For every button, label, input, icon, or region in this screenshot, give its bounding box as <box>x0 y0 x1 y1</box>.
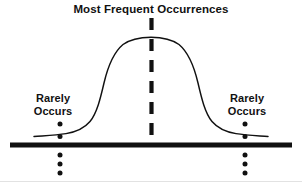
bell-curve-graphic <box>0 0 302 182</box>
right-tail-label-line-1: Rarely <box>214 92 280 105</box>
left-tail-label-line-2: Occurs <box>22 105 84 118</box>
left-tail-label-line-1: Rarely <box>22 92 84 105</box>
chart-title: Most Frequent Occurrences <box>0 3 302 17</box>
left-tail-dotted-marker <box>58 122 63 176</box>
left-tail-label: Rarely Occurs <box>22 92 84 118</box>
footer-divider <box>0 181 302 182</box>
right-tail-dotted-marker <box>243 122 248 176</box>
bell-curve-figure: Most Frequent Occurrences Rarely Occurs … <box>0 0 302 182</box>
right-tail-label-line-2: Occurs <box>214 105 280 118</box>
right-tail-label: Rarely Occurs <box>214 92 280 118</box>
